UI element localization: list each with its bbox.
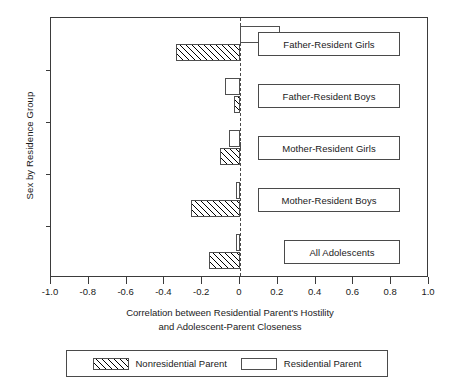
x-axis-tick-label: -0.6 xyxy=(117,286,133,297)
x-axis-tick xyxy=(201,277,202,284)
y-axis-group-tick xyxy=(46,122,51,123)
x-axis-tick xyxy=(277,277,278,284)
group-label-mother-resident-girls: Mother-Resident Girls xyxy=(258,136,400,160)
bar-residential xyxy=(236,234,240,251)
legend-label-nonresidential: Nonresidential Parent xyxy=(136,358,227,369)
x-axis-tick xyxy=(315,277,316,284)
x-axis-tick-label: -0.2 xyxy=(193,286,209,297)
x-axis-tick xyxy=(50,277,51,284)
y-axis-group-tick xyxy=(46,70,51,71)
x-axis-tick xyxy=(126,277,127,284)
bar-nonresidential xyxy=(191,200,240,217)
y-axis-group-tick xyxy=(46,174,51,175)
x-axis-tick xyxy=(352,277,353,284)
zero-reference-line xyxy=(240,18,241,276)
x-axis-tick-label: 0.8 xyxy=(384,286,397,297)
legend-label-residential: Residential Parent xyxy=(284,358,362,369)
x-axis-title-line2: and Adolescent-Parent Closeness xyxy=(20,320,440,334)
y-axis-group-tick xyxy=(46,226,51,227)
y-axis-title: Sex by Residence Group xyxy=(24,56,35,236)
x-axis-title: Correlation between Residential Parent's… xyxy=(20,306,440,333)
plot-area: Father-Resident GirlsFather-Resident Boy… xyxy=(50,17,428,277)
x-axis-tick-label: 0.6 xyxy=(346,286,359,297)
bar-nonresidential xyxy=(176,44,240,61)
x-axis-tick-label: 0.2 xyxy=(270,286,283,297)
bar-chart-figure: Sex by Residence Group Father-Resident G… xyxy=(0,0,453,392)
x-axis-tick-label: 1.0 xyxy=(421,286,434,297)
x-axis-title-line1: Correlation between Residential Parent's… xyxy=(20,306,440,320)
x-axis-tick-label: 0.4 xyxy=(308,286,321,297)
legend-item-residential: Residential Parent xyxy=(241,358,362,370)
group-label-father-resident-girls: Father-Resident Girls xyxy=(258,32,400,56)
x-axis-tick xyxy=(163,277,164,284)
bar-nonresidential xyxy=(209,252,240,269)
x-axis-ticks xyxy=(50,277,428,285)
x-axis-tick xyxy=(88,277,89,284)
legend-swatch-hatched-icon xyxy=(93,358,129,370)
bar-nonresidential xyxy=(220,148,240,165)
x-axis-tick xyxy=(390,277,391,284)
group-label-all-adolescents: All Adolescents xyxy=(284,240,400,264)
x-axis-tick-labels: -1.0-0.8-0.6-0.4-0.200.20.40.60.81.0 xyxy=(50,286,428,300)
x-axis-tick-label: -1.0 xyxy=(42,286,58,297)
x-axis-tick-label: -0.8 xyxy=(80,286,96,297)
bar-nonresidential xyxy=(234,96,240,113)
bar-residential xyxy=(229,130,240,147)
chart-legend: Nonresidential Parent Residential Parent xyxy=(66,350,388,377)
bar-residential xyxy=(225,78,240,95)
group-label-father-resident-boys: Father-Resident Boys xyxy=(258,84,400,108)
group-label-mother-resident-boys: Mother-Resident Boys xyxy=(258,188,400,212)
x-axis-tick-label: 0 xyxy=(236,286,241,297)
legend-swatch-white-icon xyxy=(241,358,277,370)
legend-item-nonresidential: Nonresidential Parent xyxy=(93,358,227,370)
x-axis-tick-label: -0.4 xyxy=(155,286,171,297)
bar-residential xyxy=(236,182,240,199)
x-axis-tick xyxy=(428,277,429,284)
x-axis-tick xyxy=(239,277,240,284)
